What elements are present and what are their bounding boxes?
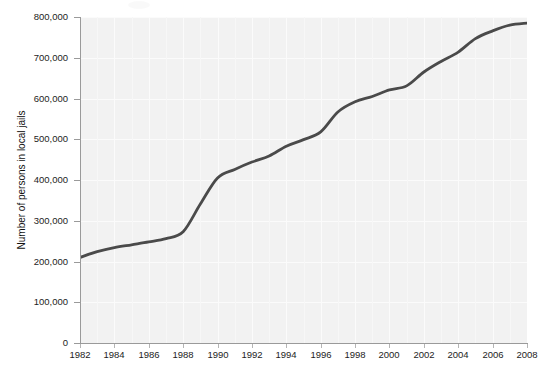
plot-area xyxy=(80,17,527,343)
x-tick-label: 2008 xyxy=(516,350,537,360)
series-line-svg xyxy=(80,17,527,343)
y-tick-label: 600,000 xyxy=(34,94,68,104)
y-tick-mark xyxy=(74,302,80,303)
x-tick-mark xyxy=(218,344,219,348)
x-tick-mark xyxy=(389,344,390,348)
x-tick-label: 1982 xyxy=(69,350,90,360)
x-tick-mark xyxy=(321,344,322,348)
y-tick-mark xyxy=(74,221,80,222)
y-tick-label: 400,000 xyxy=(34,175,68,185)
x-tick-label: 2002 xyxy=(413,350,434,360)
y-tick-mark xyxy=(74,17,80,18)
x-tick-label: 1996 xyxy=(310,350,331,360)
x-axis-line xyxy=(80,343,528,344)
x-tick-mark xyxy=(355,344,356,348)
y-tick-label: 0 xyxy=(63,338,68,348)
x-tick-mark xyxy=(80,344,81,348)
x-tick-mark xyxy=(527,344,528,348)
x-tick-label: 2004 xyxy=(447,350,468,360)
x-tick-label: 2000 xyxy=(378,350,399,360)
series-line-path xyxy=(80,23,527,257)
x-tick-label: 1988 xyxy=(172,350,193,360)
x-tick-mark xyxy=(424,344,425,348)
x-tick-label: 1984 xyxy=(103,350,124,360)
y-tick-mark xyxy=(74,262,80,263)
y-tick-label: 500,000 xyxy=(34,134,68,144)
y-tick-label: 700,000 xyxy=(34,53,68,63)
line-chart: 0100,000200,000300,000400,000500,000600,… xyxy=(0,0,542,369)
y-tick-label: 300,000 xyxy=(34,216,68,226)
x-tick-mark xyxy=(252,344,253,348)
y-tick-label: 800,000 xyxy=(34,12,68,22)
x-tick-label: 1998 xyxy=(344,350,365,360)
x-tick-label: 1990 xyxy=(207,350,228,360)
x-tick-label: 2006 xyxy=(482,350,503,360)
y-axis-title: Number of persons in local jails xyxy=(14,17,30,343)
y-tick-mark xyxy=(74,139,80,140)
x-tick-label: 1992 xyxy=(241,350,262,360)
y-tick-mark xyxy=(74,99,80,100)
x-tick-mark xyxy=(458,344,459,348)
x-tick-mark xyxy=(183,344,184,348)
x-tick-mark xyxy=(493,344,494,348)
y-tick-mark xyxy=(74,58,80,59)
y-tick-label: 100,000 xyxy=(34,297,68,307)
x-tick-mark xyxy=(114,344,115,348)
x-tick-label: 1986 xyxy=(138,350,159,360)
y-axis-line xyxy=(80,17,81,343)
y-tick-mark xyxy=(74,180,80,181)
scan-artifact xyxy=(128,1,150,9)
y-tick-label: 200,000 xyxy=(34,257,68,267)
x-tick-mark xyxy=(149,344,150,348)
x-tick-mark xyxy=(286,344,287,348)
x-tick-label: 1994 xyxy=(275,350,296,360)
